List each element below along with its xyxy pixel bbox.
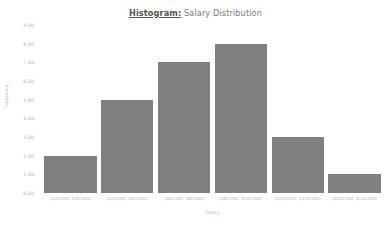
y-axis-tick-label: 2.00 — [23, 153, 34, 158]
chart-title: Histogram: Salary Distribution — [0, 8, 391, 18]
chart-title-rest: Salary Distribution — [181, 8, 262, 18]
histogram-bar — [328, 174, 380, 193]
chart-title-emphasis: Histogram: — [129, 8, 181, 18]
y-axis-tick-label: 5.00 — [23, 97, 34, 102]
y-axis-tick-labels: 0.001.002.003.004.005.006.007.008.009.00 — [0, 25, 38, 193]
x-axis-tick-label: [$60,000, $80,000) — [156, 196, 213, 201]
histogram-bar — [44, 156, 96, 193]
histogram-bar — [272, 137, 324, 193]
y-axis-tick-label: 9.00 — [23, 23, 34, 28]
histogram-bar — [215, 44, 267, 193]
y-axis-tick-label: 7.00 — [23, 60, 34, 65]
y-axis-tick-label: 4.00 — [23, 116, 34, 121]
x-axis-tick-label: [$40,000, $60,000) — [99, 196, 156, 201]
histogram-figure: Histogram: Salary Distribution Frequency… — [0, 0, 391, 233]
x-axis-tick-labels: [$20,000, $40,000)[$40,000, $60,000)[$60… — [42, 196, 383, 208]
histogram-bar — [158, 62, 210, 193]
x-axis-tick-label: [$80,000, $100,000) — [213, 196, 270, 201]
y-axis-tick-label: 3.00 — [23, 135, 34, 140]
x-axis-title: Salary — [42, 210, 383, 215]
y-axis-tick-label: 8.00 — [23, 41, 34, 46]
x-axis-tick-label: [$120,000, $140,000) — [326, 196, 383, 201]
y-axis-tick-label: 6.00 — [23, 79, 34, 84]
plot-area — [42, 25, 383, 193]
y-axis-tick-label: 0.00 — [23, 191, 34, 196]
x-axis-tick-label: [$20,000, $40,000) — [42, 196, 99, 201]
y-axis-tick-label: 1.00 — [23, 172, 34, 177]
histogram-bar — [101, 100, 153, 193]
x-axis-tick-label: [$100,000, $120,000) — [269, 196, 326, 201]
